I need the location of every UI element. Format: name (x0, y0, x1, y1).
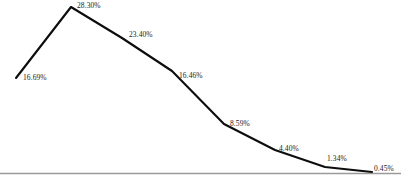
data-label-point-1: 16.69% (23, 73, 47, 82)
data-label-point-5: 8.59% (230, 119, 250, 128)
series-line-1 (16, 7, 372, 172)
data-label-point-8: 0.45% (374, 164, 394, 173)
data-label-point-2: 28.30% (77, 1, 101, 10)
data-label-point-3: 23.40% (129, 30, 153, 39)
data-label-point-6: 4.40% (279, 144, 299, 153)
data-label-point-4: 16.46% (179, 71, 203, 80)
line-chart: 16.69% 28.30% 23.40% 16.46% 8.59% 4.40% … (0, 0, 401, 181)
data-label-point-7: 1.34% (327, 154, 347, 163)
